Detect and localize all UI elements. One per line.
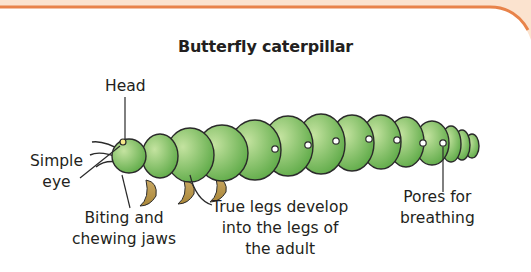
label-pores: Pores for breathing [400, 187, 475, 229]
caterpillar-head [112, 139, 146, 173]
diagram-frame: Butterfly caterpillar Head Simple eye Bi… [0, 0, 531, 272]
label-head: Head [105, 76, 146, 97]
label-simple-eye: Simple eye [30, 151, 83, 193]
diagram-title: Butterfly caterpillar [0, 37, 531, 56]
label-jaws: Biting and chewing jaws [72, 208, 176, 250]
simple-eye [120, 139, 126, 145]
label-true-legs: True legs develop into the legs of the a… [212, 197, 348, 260]
